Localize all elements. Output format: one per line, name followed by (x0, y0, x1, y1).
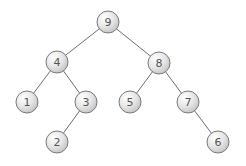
tree-diagram: 948135726 (0, 0, 246, 166)
tree-node-2: 2 (46, 131, 68, 153)
node-label: 9 (105, 16, 112, 29)
node-label: 8 (156, 57, 163, 70)
edges-layer (27, 22, 218, 142)
node-label: 4 (54, 56, 61, 69)
tree-node-6: 6 (207, 131, 229, 153)
node-label: 6 (215, 136, 222, 149)
nodes-layer: 948135726 (16, 11, 229, 153)
node-label: 2 (54, 136, 61, 149)
tree-node-8: 8 (148, 52, 170, 74)
tree-node-7: 7 (177, 91, 199, 113)
node-label: 7 (185, 96, 192, 109)
tree-node-5: 5 (119, 91, 141, 113)
node-label: 3 (83, 96, 90, 109)
node-label: 1 (24, 96, 31, 109)
tree-node-3: 3 (75, 91, 97, 113)
tree-node-1: 1 (16, 91, 38, 113)
node-label: 5 (127, 96, 134, 109)
tree-node-9: 9 (97, 11, 119, 33)
tree-node-4: 4 (46, 51, 68, 73)
